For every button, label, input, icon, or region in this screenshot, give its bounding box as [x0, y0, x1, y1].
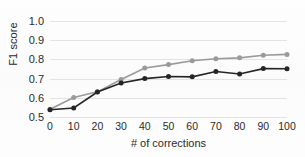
data-point-marker: [213, 56, 218, 61]
x-tick-label: 50: [163, 120, 175, 132]
y-axis-title: F1 score: [7, 9, 19, 79]
data-point-marker: [261, 53, 266, 58]
data-point-marker: [48, 107, 53, 112]
x-tick-label: 90: [257, 120, 269, 132]
series-upper-series: [48, 52, 290, 112]
y-tick-label: 0.7: [29, 73, 44, 85]
x-tick-label: 100: [278, 120, 296, 132]
y-tick-label: 0.6: [29, 92, 44, 104]
data-point-marker: [237, 71, 242, 76]
data-point-marker: [237, 55, 242, 60]
data-point-marker: [261, 66, 266, 71]
y-tick-label: 0.9: [29, 34, 44, 46]
data-point-marker: [71, 95, 76, 100]
data-point-marker: [190, 74, 195, 79]
x-tick-label: 80: [234, 120, 246, 132]
x-tick-label: 70: [210, 120, 222, 132]
series-lower-series: [48, 66, 290, 112]
data-point-marker: [142, 66, 147, 71]
data-point-marker: [71, 105, 76, 110]
gridline: [50, 117, 287, 118]
y-tick-label: 1.0: [29, 15, 44, 27]
x-tick-label: 0: [47, 120, 53, 132]
data-point-marker: [142, 76, 147, 81]
data-point-marker: [166, 74, 171, 79]
x-tick-label: 60: [186, 120, 198, 132]
data-point-marker: [119, 81, 124, 86]
y-tick-label: 0.8: [29, 53, 44, 65]
data-point-marker: [166, 62, 171, 67]
y-tick-label: 0.5: [29, 111, 44, 123]
plot-area: 0.50.60.70.80.91.0 010203040506070809010…: [50, 21, 287, 117]
x-tick-label: 20: [92, 120, 104, 132]
x-tick-label: 30: [115, 120, 127, 132]
x-axis-title: # of corrections: [50, 137, 287, 149]
data-point-marker: [95, 90, 100, 95]
data-point-marker: [190, 58, 195, 63]
data-point-marker: [285, 66, 290, 71]
data-point-marker: [285, 52, 290, 57]
x-tick-label: 40: [139, 120, 151, 132]
f1-score-line-chart: F1 score 0.50.60.70.80.91.0 010203040506…: [0, 0, 305, 157]
data-point-marker: [213, 69, 218, 74]
x-tick-label: 10: [68, 120, 80, 132]
data-series-layer: [50, 21, 287, 117]
